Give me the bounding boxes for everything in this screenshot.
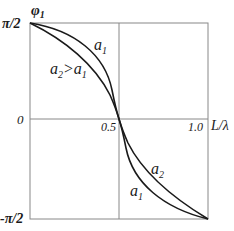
ytick-bottom: -π/2 [0, 211, 23, 226]
phase-chart: φ1 π/2 0 -π/2 0.5 1.0 L/λ a1 a2>a1 a2 a1 [0, 0, 234, 231]
xtick-mid: 0.5 [101, 120, 116, 134]
annotation-a1-top: a1 [94, 36, 107, 56]
ylabel: φ1 [31, 2, 45, 20]
annotation-a2-gt-a1: a2>a1 [50, 60, 87, 80]
xlabel: L/λ [210, 118, 229, 133]
annotation-a1-bottom: a1 [130, 182, 143, 202]
xtick-end: 1.0 [188, 120, 203, 134]
ytick-top: π/2 [2, 16, 21, 31]
ytick-zero: 0 [17, 112, 24, 127]
